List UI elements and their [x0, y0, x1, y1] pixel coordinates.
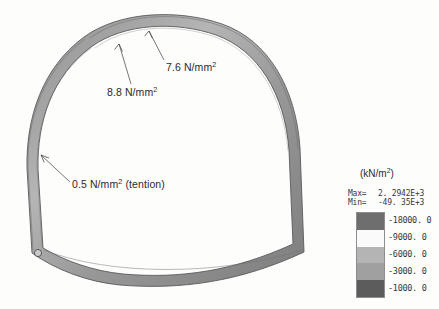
legend-swatch-2 — [357, 247, 384, 264]
leader-line-05 — [41, 155, 70, 182]
leader-line-88 — [119, 44, 131, 84]
legend-max-row: Max=2. 2942E+3 — [348, 189, 424, 198]
tunnel-stress-figure: 7.6 N/mm2 8.8 N/mm2 0.5 N/mm2 (tention) … — [0, 0, 439, 309]
annotation-76-text: 7.6 N/mm — [166, 61, 212, 73]
legend-unit-suffix: ) — [391, 168, 394, 179]
annotation-88-superscript: 2 — [153, 85, 157, 94]
legend-max-value: 2. 2942E+3 — [378, 189, 424, 198]
lining-ring-path — [27, 15, 304, 287]
annotation-76-superscript: 2 — [212, 60, 216, 69]
arch-outer-edge — [90, 17, 298, 149]
annotation-05-text: 0.5 N/mm — [72, 178, 118, 190]
legend-tick-3: -3000. 0 — [388, 262, 438, 279]
legend-panel: (kN/m2) Max=2. 2942E+3 Min=-49. 35E+3 -1… — [344, 168, 439, 303]
annotation-stress-7-6: 7.6 N/mm2 — [166, 61, 216, 73]
leader-arrows — [41, 31, 164, 182]
tunnel-lining-band — [27, 15, 304, 287]
legend-tick-1: -9000. 0 — [388, 229, 438, 246]
legend-unit-label: (kN/m2) — [360, 168, 394, 179]
legend-swatch-0 — [357, 213, 384, 230]
legend-color-bar — [356, 212, 385, 298]
legend-swatch-4 — [357, 280, 384, 297]
annotation-05-suffix: (tention) — [122, 178, 164, 190]
legend-tick-4: -1000. 0 — [388, 279, 438, 296]
legend-max-label: Max= — [348, 189, 378, 198]
lining-inner-highlight — [37, 48, 91, 247]
legend-swatch-1 — [357, 230, 384, 247]
annotation-88-text: 8.8 N/mm — [107, 86, 153, 98]
legend-swatch-3 — [357, 263, 384, 280]
arrowhead-88 — [115, 44, 123, 52]
legend-min-label: Min= — [348, 198, 378, 207]
legend-tick-2: -6000. 0 — [388, 246, 438, 263]
legend-tick-labels: -18000. 0 -9000. 0 -6000. 0 -3000. 0 -10… — [388, 212, 438, 296]
node-marker-icon — [34, 249, 41, 256]
legend-unit-prefix: (kN/m — [360, 168, 387, 179]
legend-tick-0: -18000. 0 — [388, 212, 438, 229]
legend-min-value: -49. 35E+3 — [378, 198, 424, 207]
annotation-stress-8-8: 8.8 N/mm2 — [107, 86, 157, 98]
annotation-stress-0-5-tension: 0.5 N/mm2 (tention) — [72, 178, 165, 190]
legend-min-row: Min=-49. 35E+3 — [348, 198, 424, 207]
